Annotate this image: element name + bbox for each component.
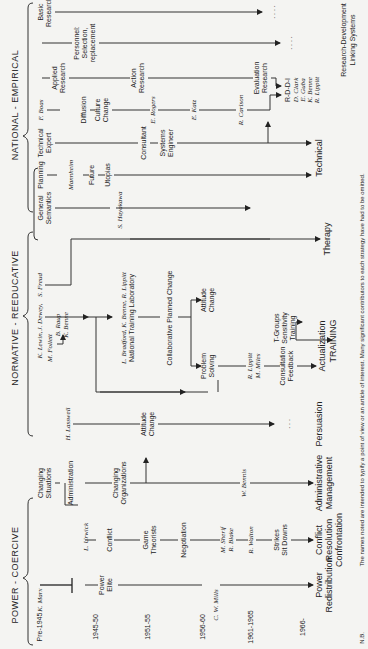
name-m-miles: M. Miles (254, 353, 262, 379)
label-administrative-management-2: Management (324, 456, 334, 509)
label-power-elite-1: Power (98, 574, 105, 595)
ntl-names: L. Bradford, K. Benne, R. Lippitt (120, 271, 128, 365)
footnote-text: The names noted are intended to typify a… (359, 173, 365, 567)
label-attitude-change-2: Change (148, 412, 156, 437)
label-basic-research-1: Basic (37, 3, 44, 21)
label-rddi: R-D-D-I (284, 78, 291, 102)
label-rd-linking-2: Linking Systems (349, 14, 357, 65)
name-e-rogers: E. Rogers (149, 96, 157, 125)
name-m-follett: M. Follett (46, 333, 54, 363)
label-attitude-change-1: Attitude (140, 412, 147, 436)
label-consultant: Consultant (140, 126, 147, 160)
label-evaluation-research-1: Evaluation (253, 62, 260, 95)
label-therapy: Therapy (322, 222, 332, 256)
label-evaluation-research-2: Research (261, 63, 268, 93)
label-action-research-1: Action (130, 68, 137, 88)
label-game-theorists-2: Theorists (150, 525, 157, 554)
heading-normative-reeducative: NORMATIVE - REEDUCATIVE (10, 250, 20, 386)
label-technical: Technical (314, 139, 324, 177)
label-changing-organizations-2: Organizations (120, 461, 128, 505)
label-changing-situations-2: Situations (45, 467, 52, 498)
timeline-periods: Pre-1945 1945-50 1951-55 1956-60 1961-19… (36, 610, 306, 644)
diagram-canvas: POWER - COERCIVE NORMATIVE - REEDUCATIVE… (0, 0, 368, 649)
name-r-lippitt-rd: R. Lippitt (313, 76, 321, 105)
name-r-carlson: R. Carlson (237, 94, 245, 126)
name-c-w-mills: C. W. Mills (212, 589, 220, 621)
label-ntl: National Training Laboratory (128, 274, 136, 362)
label-culture-change-2: Change (102, 98, 110, 123)
label-technical-expert-2: Expert (45, 133, 53, 153)
name-mannheim: Mannheim (67, 160, 75, 191)
label-actualization: Actualization (317, 320, 327, 371)
label-t-groups: T-Groups (273, 313, 281, 343)
heading-power-coercive: POWER - COERCIVE (10, 526, 20, 623)
label-planning: Planning (37, 161, 45, 188)
label-power-redistribution-2: Redistribution (324, 557, 334, 612)
period-1956-60: 1956-60 (199, 614, 206, 640)
name-m-sherif: M. Sherif (219, 526, 227, 554)
label-power-redistribution-1: Power (314, 572, 324, 598)
label-rd-linking-1: Research-Development (340, 3, 348, 77)
label-utopias: Utopias (104, 163, 112, 187)
name-k-marx: K. Marx (36, 587, 44, 612)
label-administrative-management-1: Administrative (314, 455, 324, 512)
label-systems-engineer-1: Systems (159, 129, 167, 156)
name-k-benne: K. Benne (62, 312, 70, 339)
label-strikes: Strikes (273, 529, 280, 551)
name-h-lasswell: H. Lasswell (64, 407, 72, 441)
period-pre-1945: Pre-1945 (36, 612, 43, 641)
label-persuasion: Persuasion (314, 401, 324, 446)
label-general-semantics-1: General (37, 195, 44, 220)
label-technical-expert-1: Technical (37, 128, 44, 158)
label-conflict-resolution-2: Resolution (324, 519, 334, 562)
footnote-prefix: N.B. (359, 632, 365, 644)
label-game-theorists-1: Game (142, 530, 149, 549)
label-sit-downs: Sit Downs (281, 524, 288, 556)
name-j-dewey: J. Dewey, (36, 303, 44, 330)
label-applied-research-2: Research (59, 63, 66, 93)
label-action-research-2: Research (138, 63, 145, 93)
label-future: Future (88, 165, 95, 185)
label-culture-change-1: Culture (94, 99, 101, 122)
strategy-diagram: POWER - COERCIVE NORMATIVE - REEDUCATIVE… (0, 0, 368, 649)
name-r-walton: R. Walton (247, 526, 255, 555)
label-personnel-2: Selection, (81, 28, 88, 59)
label-negotiation: Negotiation (180, 522, 188, 558)
label-consultation-2: Feedback (287, 350, 294, 381)
label-administration: Administration (67, 461, 74, 505)
label-training-small: Training (289, 315, 297, 340)
label-personnel-1: Personnel: (73, 26, 80, 60)
label-collaborative-planned-change: Collaborative Planned Change (166, 270, 174, 365)
name-r-lippitt: R. Lippitt (246, 352, 254, 381)
heading-national-empirical: NATIONAL - EMPIRICAL (10, 50, 20, 161)
ellipsis-persuasion: . . . (284, 419, 291, 429)
name-r-blake: R. Blake (227, 528, 235, 553)
name-f-boas: F. Boas (37, 99, 45, 121)
name-e-katz: E. Katz (190, 99, 198, 121)
label-attitude-change-n-1: Attitude (200, 288, 207, 312)
name-s-freud: S. Freud (36, 273, 44, 297)
period-1945-50: 1945-50 (92, 614, 99, 640)
label-consultation-1: Consultation (279, 346, 286, 385)
label-power-elite-2: Elite (106, 578, 113, 592)
label-training: TRAINING (328, 319, 338, 362)
label-applied-research-1: Applied (51, 66, 59, 89)
label-personnel-3: replacement (89, 24, 97, 63)
label-systems-engineer-2: Engineer (167, 128, 175, 157)
name-s-hayakawa: S. Hayakawa (116, 191, 124, 228)
name-l-urwick: L. Urwick (82, 522, 90, 552)
label-attitude-change-n-2: Change (208, 288, 216, 313)
brace-normative (23, 232, 33, 436)
label-problem-solving-1: Problem (200, 353, 207, 379)
period-1966: 1966- (299, 617, 306, 636)
ellipsis-personnel: . . . . (286, 36, 293, 50)
name-k-lewin: K. Lewin, (36, 331, 44, 359)
label-conflict: Conflict (106, 528, 113, 551)
label-sensitivity: Sensitivity (281, 312, 289, 344)
label-general-semantics-2: Semantics (45, 191, 52, 224)
brace-power (23, 498, 33, 645)
period-1961-1965: 1961-1965 (247, 610, 254, 644)
label-changing-organizations-1: Changing (112, 468, 120, 498)
ellipsis-basic: . . . . (269, 5, 276, 19)
label-basic-research-2: Research (45, 0, 52, 27)
